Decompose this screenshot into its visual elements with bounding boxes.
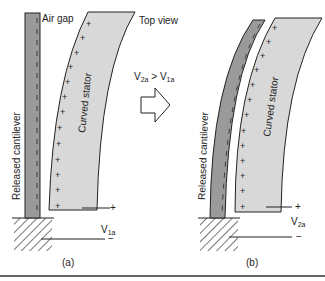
- transition: Top view V2a > V1a: [134, 15, 179, 122]
- plus-terminal-a: +: [110, 202, 116, 213]
- cantilever-a: [25, 13, 40, 218]
- svg-text:+: +: [55, 155, 60, 165]
- panel-label-a: (a): [62, 257, 74, 268]
- svg-text:+: +: [57, 123, 62, 133]
- svg-text:+: +: [55, 201, 60, 211]
- svg-text:+: +: [240, 156, 245, 166]
- svg-text:+: +: [244, 110, 249, 120]
- svg-text:+: +: [74, 48, 79, 58]
- svg-text:+: +: [272, 23, 277, 33]
- svg-text:+: +: [80, 33, 85, 43]
- svg-text:+: +: [266, 37, 271, 47]
- top-view-label: Top view: [139, 15, 179, 26]
- svg-text:+: +: [241, 126, 246, 136]
- air-gap-label: Air gap: [42, 13, 74, 24]
- svg-text:+: +: [240, 141, 245, 151]
- svg-text:+: +: [65, 77, 70, 87]
- panel-a: +++ +++ +++ +++ + + − V1a Air gap Releas…: [11, 12, 135, 268]
- voltage-label-b: V2a: [291, 216, 306, 228]
- diagram: +++ +++ +++ +++ + + − V1a Air gap Releas…: [0, 0, 325, 281]
- svg-text:+: +: [86, 19, 91, 29]
- svg-text:+: +: [250, 80, 255, 90]
- plus-terminal-b: +: [295, 201, 301, 212]
- svg-text:+: +: [247, 95, 252, 105]
- voltage-label-a: V1a: [101, 224, 116, 236]
- svg-text:+: +: [55, 185, 60, 195]
- svg-text:+: +: [260, 51, 265, 61]
- svg-text:+: +: [254, 65, 259, 75]
- cantilever-label-b: Released cantilever: [196, 111, 210, 200]
- svg-text:+: +: [60, 107, 65, 117]
- anchor-hatch-a: [14, 218, 52, 251]
- panel-b: +++ +++ +++ +++ + + − V2a Released canti…: [196, 18, 322, 268]
- arrow-right-icon: [141, 88, 170, 122]
- cantilever-label-a: Released cantilever: [11, 112, 22, 200]
- svg-text:+: +: [240, 186, 245, 196]
- svg-text:+: +: [62, 92, 67, 102]
- svg-text:+: +: [240, 171, 245, 181]
- svg-text:+: +: [55, 170, 60, 180]
- voltage-comparison: V2a > V1a: [134, 71, 174, 83]
- anchor-hatch-b: [200, 218, 238, 251]
- minus-terminal-b: −: [296, 231, 302, 242]
- svg-text:+: +: [56, 139, 61, 149]
- svg-text:+: +: [240, 202, 245, 212]
- panel-label-b: (b): [246, 257, 258, 268]
- svg-text:+: +: [68, 62, 73, 72]
